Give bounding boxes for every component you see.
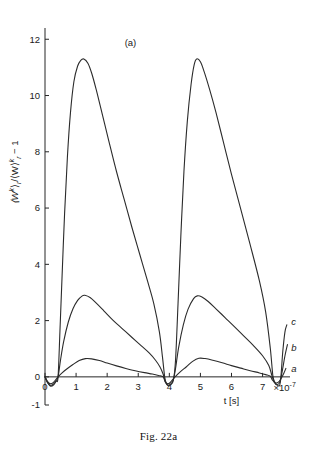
x-tick-label: 1	[73, 381, 78, 392]
y-tick-label: -1	[32, 399, 40, 410]
y-tick-label: 10	[29, 90, 40, 101]
chart-labels: cba(a)t [s]×10-7⟨Wk⟩r/⟨W⟩kr − 1	[8, 37, 296, 406]
x-tick-label: 5	[198, 381, 203, 392]
figure-caption: Fig. 22a	[0, 430, 317, 442]
y-tick-label: 8	[35, 146, 40, 157]
curve-b	[45, 295, 287, 385]
y-tick-label: 2	[35, 315, 40, 326]
chart-plot-area: -102468101201234567 cba(a)t [s]×10-7⟨Wk⟩…	[0, 0, 317, 430]
x-tick-label: 4	[167, 381, 172, 392]
x-axis-title: t [s]	[224, 395, 239, 406]
curve-c	[45, 59, 287, 386]
x-tick-label: 2	[105, 381, 110, 392]
y-tick-label: 0	[35, 371, 40, 382]
y-axis-title: ⟨Wk⟩r/⟨W⟩kr − 1	[8, 140, 22, 204]
x-tick-label: 3	[136, 381, 141, 392]
panel-label: (a)	[125, 37, 137, 48]
curve-label-c: c	[291, 316, 296, 327]
figure-22a: -102468101201234567 cba(a)t [s]×10-7⟨Wk⟩…	[0, 0, 317, 458]
curves	[45, 59, 287, 386]
y-tick-label: 6	[35, 202, 40, 213]
axes: -102468101201234567	[29, 28, 290, 410]
x-tick-label: 7	[260, 381, 265, 392]
x-axis-multiplier: ×10-7	[273, 381, 295, 393]
y-tick-label: 12	[29, 34, 40, 45]
y-tick-label: 4	[35, 259, 40, 270]
curve-label-b: b	[291, 342, 296, 353]
curve-label-a: a	[291, 363, 296, 374]
x-tick-label: 6	[229, 381, 234, 392]
x-tick-label: 0	[42, 381, 47, 392]
